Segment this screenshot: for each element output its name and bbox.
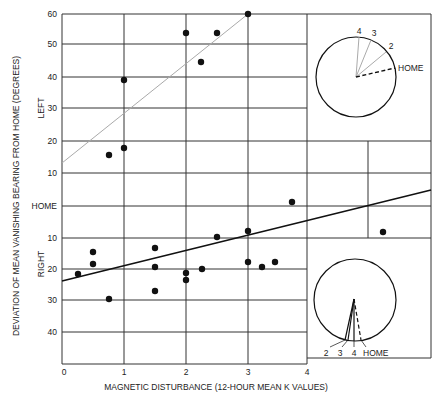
x-axis-title: MAGNETIC DISTURBANCE (12-HOUR MEAN K VAL… bbox=[104, 382, 328, 392]
svg-text:3: 3 bbox=[338, 348, 343, 358]
svg-text:10: 10 bbox=[48, 168, 58, 178]
svg-text:20: 20 bbox=[48, 264, 58, 274]
x-tick-labels: 0 1 2 3 4 bbox=[62, 367, 310, 377]
svg-text:HOME: HOME bbox=[363, 348, 389, 358]
y-axis-title: DEVIATION OF MEAN VANISHING BEARING FROM… bbox=[11, 56, 21, 336]
svg-text:40: 40 bbox=[48, 72, 58, 82]
svg-text:20: 20 bbox=[48, 136, 58, 146]
svg-text:0: 0 bbox=[62, 367, 67, 377]
svg-text:10: 10 bbox=[48, 233, 58, 243]
svg-text:HOME: HOME bbox=[32, 201, 58, 211]
svg-text:4: 4 bbox=[305, 367, 310, 377]
svg-text:2: 2 bbox=[389, 41, 394, 51]
svg-text:2: 2 bbox=[184, 367, 189, 377]
svg-text:2: 2 bbox=[324, 348, 329, 358]
right-label: RIGHT bbox=[36, 251, 46, 277]
svg-text:HOME: HOME bbox=[398, 63, 424, 73]
svg-text:4: 4 bbox=[352, 348, 357, 358]
svg-text:1: 1 bbox=[122, 367, 127, 377]
svg-text:4: 4 bbox=[357, 26, 362, 36]
svg-text:3: 3 bbox=[246, 367, 251, 377]
svg-text:40: 40 bbox=[48, 327, 58, 337]
svg-text:30: 30 bbox=[48, 103, 58, 113]
left-label: LEFT bbox=[36, 98, 46, 119]
chart-svg: 60 50 40 30 20 10 HOME 10 20 30 40 0 1 2… bbox=[0, 0, 442, 395]
svg-text:60: 60 bbox=[48, 9, 58, 19]
upper-inset-circle: 4 3 2 HOME bbox=[316, 26, 424, 117]
svg-text:50: 50 bbox=[48, 39, 58, 49]
lower-inset-circle: 2 3 4 HOME bbox=[314, 259, 396, 358]
svg-text:3: 3 bbox=[372, 28, 377, 38]
svg-text:30: 30 bbox=[48, 295, 58, 305]
y-tick-labels: 60 50 40 30 20 10 HOME 10 20 30 40 bbox=[32, 9, 58, 337]
